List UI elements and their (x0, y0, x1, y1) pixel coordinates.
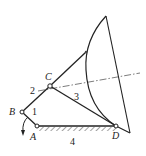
joint-dish-top (85, 51, 87, 53)
joint-d (114, 124, 118, 128)
label-link-3: 3 (74, 91, 79, 102)
link-3-rocker (50, 86, 116, 126)
ground-hatching (39, 127, 116, 131)
diagram-svg: A B C D 1 2 3 4 (0, 0, 146, 156)
label-b: B (9, 106, 15, 117)
linkage-diagram: A B C D 1 2 3 4 (0, 0, 146, 156)
label-c: C (45, 71, 52, 82)
antenna-dish-rim (106, 16, 130, 133)
label-link-1: 1 (32, 106, 37, 117)
dish-support-arm (50, 52, 86, 86)
joint-b (20, 110, 24, 114)
label-link-2: 2 (30, 85, 35, 96)
rotation-arrow-icon (23, 117, 28, 132)
arrowhead-icon (21, 130, 25, 136)
joint-a (35, 124, 39, 128)
label-link-4: 4 (70, 136, 75, 147)
joint-c (48, 84, 52, 88)
label-a: A (29, 131, 37, 142)
antenna-dish-arc (86, 16, 116, 126)
label-d: D (111, 130, 120, 141)
